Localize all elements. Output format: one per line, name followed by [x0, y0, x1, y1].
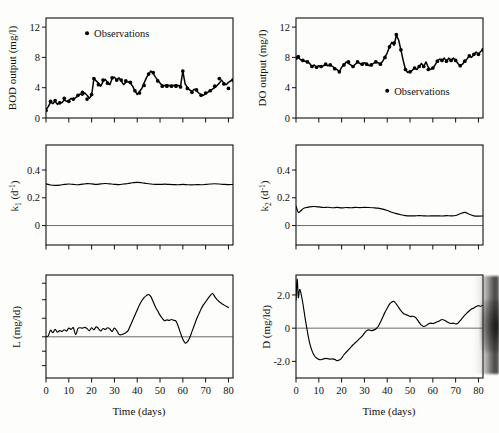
- series-line-k1: [46, 182, 233, 185]
- observation-point: [49, 99, 53, 103]
- observation-point: [208, 89, 212, 93]
- observation-point: [156, 79, 160, 83]
- observation-point: [190, 90, 194, 94]
- panel-L: 01020304050607080: [42, 275, 234, 396]
- legend-label-do: Observations: [394, 86, 449, 97]
- observation-point: [106, 81, 110, 85]
- observation-point: [379, 62, 383, 66]
- observation-point: [85, 97, 89, 101]
- x-tick-label-D: 20: [336, 385, 347, 396]
- observation-point: [365, 62, 369, 66]
- observation-point: [129, 81, 133, 85]
- series-line-bod: [46, 71, 233, 110]
- y-tick-label-k1: 0: [35, 220, 40, 231]
- ylabel-do: DO output (mg/l): [256, 29, 269, 106]
- observation-point: [165, 84, 169, 88]
- observation-point: [124, 79, 128, 83]
- observation-point: [360, 62, 364, 66]
- y-tick-label-do: 0: [285, 113, 290, 124]
- observation-point: [133, 89, 137, 93]
- x-tick-label-L: 20: [86, 385, 97, 396]
- xlabel-right: Time (days): [362, 405, 415, 418]
- y-tick-label-D: 0: [285, 323, 290, 334]
- observation-point: [195, 88, 199, 92]
- ylabel-bod-text: BOD output (mg/l): [6, 26, 19, 111]
- observation-point: [58, 101, 62, 105]
- y-tick-label-do: 12: [280, 22, 291, 33]
- observation-point: [181, 69, 185, 73]
- observation-point: [160, 84, 164, 88]
- observation-point: [53, 99, 57, 103]
- observation-point: [97, 83, 101, 87]
- observation-point: [383, 56, 387, 60]
- observation-point: [374, 60, 378, 64]
- x-tick-label-L: 50: [155, 385, 166, 396]
- observation-point: [394, 33, 398, 37]
- observation-point: [392, 41, 396, 45]
- y-tick-label-k2: 0.4: [277, 165, 291, 176]
- observation-point: [217, 77, 221, 81]
- observation-point: [81, 90, 85, 94]
- observation-point: [296, 55, 300, 59]
- legend-bod: Observations: [85, 28, 149, 39]
- ylabel-L: L (mg/ld): [10, 306, 23, 348]
- panel-frame-D: [296, 275, 483, 378]
- y-tick-label-do: 8: [285, 52, 290, 63]
- observation-point: [186, 87, 190, 91]
- observation-point: [301, 59, 305, 63]
- observation-point: [179, 85, 183, 89]
- observation-point: [62, 96, 66, 100]
- observation-point: [422, 65, 426, 69]
- y-tick-label-bod: 0: [35, 113, 40, 124]
- observation-point: [445, 59, 449, 63]
- panel-frame-k2: [296, 145, 483, 245]
- observation-point: [463, 59, 467, 63]
- x-tick-label-D: 10: [314, 385, 325, 396]
- y-tick-label-k1: 0.4: [27, 165, 41, 176]
- ylabel-do-text: DO output (mg/l): [256, 29, 269, 106]
- observation-point: [467, 54, 471, 58]
- observation-point: [204, 91, 208, 95]
- observation-point: [369, 63, 373, 67]
- observation-point: [436, 59, 440, 63]
- multi-panel-timeseries-figure: 048120481200.20.400.20.40102030405060708…: [0, 0, 499, 433]
- ylabel-D: D (mg/ld): [260, 305, 273, 349]
- panel-D: -2.002.001020304050607080: [273, 275, 483, 396]
- observation-point: [472, 53, 476, 57]
- legend-marker-icon: [85, 31, 89, 35]
- y-tick-label-D: -2.0: [273, 356, 290, 367]
- series-line-do: [296, 35, 483, 72]
- y-tick-label-D: 2.0: [277, 290, 290, 301]
- x-tick-label-D: 60: [428, 385, 439, 396]
- observation-point: [458, 64, 462, 68]
- x-tick-label-D: 80: [473, 385, 484, 396]
- y-tick-label-bod: 8: [35, 52, 40, 63]
- x-tick-label-L: 30: [109, 385, 120, 396]
- observation-point: [408, 70, 412, 74]
- observation-point: [170, 84, 174, 88]
- observation-point: [76, 93, 80, 97]
- observation-point: [90, 93, 94, 97]
- y-tick-label-k2: 0: [285, 220, 290, 231]
- ylabel-bod: BOD output (mg/l): [6, 26, 19, 111]
- ylabel-k2: k2 (d-1): [258, 180, 274, 211]
- observation-point: [67, 99, 71, 103]
- observation-point: [110, 76, 114, 80]
- observation-point: [413, 66, 417, 70]
- x-tick-label-D: 50: [405, 385, 416, 396]
- ylabel-L-text: L (mg/ld): [10, 306, 23, 348]
- observation-point: [306, 60, 310, 64]
- y-tick-label-k1: 0.2: [27, 192, 40, 203]
- x-tick-label-L: 80: [223, 385, 234, 396]
- observation-point: [151, 71, 155, 75]
- observation-point: [388, 45, 392, 49]
- legend-label-bod: Observations: [94, 28, 149, 39]
- observation-point: [337, 70, 341, 74]
- observation-point: [356, 60, 360, 64]
- x-tick-label-L: 40: [132, 385, 143, 396]
- observation-point: [342, 63, 346, 67]
- ylabel-k2-text: k2 (d-1): [258, 180, 274, 211]
- observation-point: [227, 87, 231, 91]
- x-tick-label-D: 30: [359, 385, 370, 396]
- observation-point: [44, 109, 48, 113]
